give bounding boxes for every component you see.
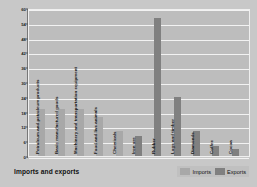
bar-category-label: Diamonds xyxy=(190,132,195,154)
bar-slot: Iron ore xyxy=(129,10,148,156)
legend-item[interactable]: Exports xyxy=(215,168,246,175)
legend-label: Exports xyxy=(227,169,246,175)
bar-category-label: Coffee xyxy=(209,140,214,154)
legend-item[interactable]: Imports xyxy=(180,168,211,175)
legend-label: Imports xyxy=(192,169,211,175)
bar-slot: Cocoa xyxy=(226,10,245,156)
bar-slot: Diamonds xyxy=(187,10,206,156)
bar-category-label: Iron ore xyxy=(131,137,136,154)
bar-category-label: Food and live animals xyxy=(93,107,98,154)
bar-category-label: Chemicals xyxy=(112,132,117,154)
bar-category-label: Rubber xyxy=(151,138,156,154)
chart-title: Imports and exports xyxy=(14,168,79,175)
gridline xyxy=(29,158,249,159)
bar[interactable] xyxy=(135,136,142,156)
plot-area: Petroleum and petroleum productsBasic ma… xyxy=(28,9,250,157)
bar-slot: Rubber xyxy=(148,10,167,156)
legend-swatch-icon xyxy=(215,168,225,175)
y-axis-ticks: 06121824303642485460 xyxy=(0,0,28,148)
bar-category-label: Petroleum and petroleum products xyxy=(35,79,40,154)
bar-series-container: Petroleum and petroleum productsBasic ma… xyxy=(29,10,249,156)
bar-slot: Logs and timber xyxy=(168,10,187,156)
bar-category-label: Basic manufactured goods xyxy=(54,96,59,154)
legend-swatch-icon xyxy=(180,168,190,175)
bar-category-label: Logs and timber xyxy=(170,119,175,154)
bar-slot: Coffee xyxy=(206,10,225,156)
bar-slot: Machinery and transportation equipment xyxy=(71,10,90,156)
bar-slot: Chemicals xyxy=(109,10,128,156)
chart-figure: Percentage of total 06121824303642485460… xyxy=(0,0,257,187)
bar-slot: Food and live animals xyxy=(90,10,109,156)
bar[interactable] xyxy=(154,18,161,156)
bar-slot: Basic manufactured goods xyxy=(51,10,70,156)
chart-footer: Imports and exports ImportsExports xyxy=(0,161,257,187)
bar-category-label: Cocoa xyxy=(228,140,233,154)
chart-legend: ImportsExports xyxy=(177,166,249,177)
bar-category-label: Machinery and transportation equipment xyxy=(73,67,78,154)
bar-slot: Petroleum and petroleum products xyxy=(32,10,51,156)
